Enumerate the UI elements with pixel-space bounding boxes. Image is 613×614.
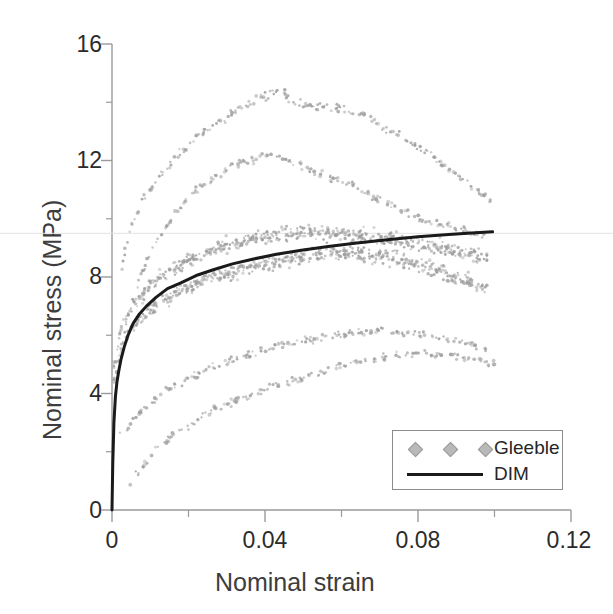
legend-label-gleeble: Gleeble	[494, 437, 560, 459]
chart-figure: Nominal stress (MPa) Nominal strain 16 1…	[0, 0, 613, 614]
legend: Gleeble DIM	[392, 430, 563, 490]
legend-diamond-icon-3	[478, 442, 494, 458]
legend-label-dim: DIM	[494, 463, 529, 485]
legend-diamond-icon-1	[408, 442, 424, 458]
legend-diamond-icon-2	[443, 442, 459, 458]
plot-canvas	[0, 0, 613, 614]
legend-line-icon	[407, 473, 483, 476]
